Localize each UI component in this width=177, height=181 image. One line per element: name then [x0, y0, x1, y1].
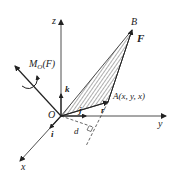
moment-diagram: z y x O B F A(x, y, x) r d i j k MO(F) — [0, 0, 177, 181]
moment-label: MO(F) — [28, 58, 56, 71]
x-axis-label: x — [20, 161, 26, 172]
position-vector-label: r — [101, 105, 105, 115]
unit-k-label: k — [65, 84, 70, 94]
point-a-label: A(x, y, x) — [112, 91, 145, 101]
origin-label: O — [48, 109, 55, 120]
moment-area-triangle — [61, 30, 132, 116]
line-of-action-dashed — [86, 102, 108, 146]
svg-text:MO(F): MO(F) — [28, 58, 56, 71]
z-axis-label: z — [51, 15, 56, 26]
point-b-label: B — [131, 16, 137, 27]
y-axis-label: y — [157, 118, 163, 129]
unit-i-label: i — [51, 129, 54, 139]
force-label: F — [136, 32, 145, 44]
distance-label: d — [74, 126, 79, 136]
